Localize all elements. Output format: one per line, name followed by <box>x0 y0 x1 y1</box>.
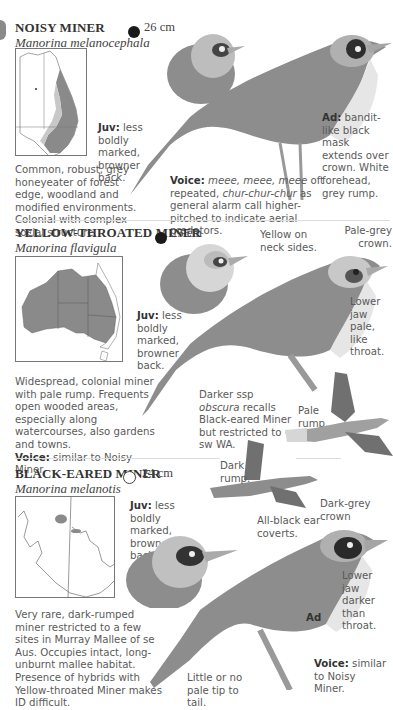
adult-label: Ad <box>306 612 321 625</box>
voice-black-eared-miner: Voice: similar to Noisy Miner. <box>314 658 389 696</box>
annotation-lower-jaw: Lower jaw darker than throat. <box>342 570 393 633</box>
range-map-yellow-throated-miner <box>15 256 123 362</box>
section-divider <box>15 458 220 459</box>
scientific-name-black-eared-miner: Manorina melanotis <box>15 481 121 497</box>
annotation-jaw: Lower jaw pale, like throat. <box>350 296 392 359</box>
description-black-eared-miner: Very rare, dark-rumped miner restricted … <box>15 609 165 710</box>
size-black-eared-miner: 24 cm <box>142 466 173 481</box>
ad-note-noisy-miner: Ad: bandit-like black mask extends over … <box>322 112 392 200</box>
species-title-noisy-miner: NOISY MINER <box>15 20 105 36</box>
status-open-circle-icon <box>123 469 136 488</box>
description-yellow-throated-miner: Widespread, colonial miner with pale rum… <box>15 376 155 477</box>
range-map-black-eared-miner <box>15 496 115 598</box>
scientific-name-yellow-throated-miner: Manorina flavigula <box>15 240 116 256</box>
species-title-black-eared-miner: BLACK-EARED MINER <box>15 466 161 482</box>
section-tab <box>0 20 6 40</box>
range-map-noisy-miner <box>15 48 87 156</box>
annotation-crown: Pale-grey crown. <box>312 225 392 250</box>
annotation-tail-tip: Little or no pale tip to tail. <box>187 672 257 710</box>
annotation-dark-rump: Dark rump. <box>220 460 250 485</box>
annotation-neck: Yellow on neck sides. <box>260 229 320 254</box>
section-divider <box>15 220 390 221</box>
